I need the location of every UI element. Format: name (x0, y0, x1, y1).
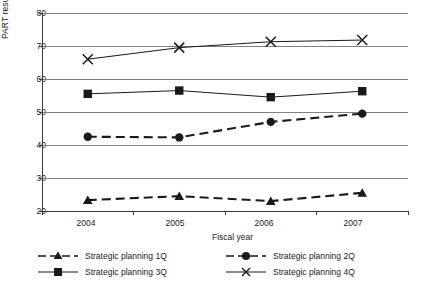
legend-sample-4q (224, 265, 268, 279)
data-point (267, 93, 275, 101)
legend-label-1q: Strategic planning 1Q (80, 251, 167, 261)
plot-area (0, 0, 423, 290)
data-point (358, 109, 366, 117)
series-2 (84, 109, 367, 141)
legend-item-2q[interactable]: Strategic planning 2Q (224, 248, 423, 263)
legend-sample-1q (36, 249, 80, 263)
legend-sample-2q (224, 249, 268, 263)
legend-label-4q: Strategic planning 4Q (268, 267, 355, 277)
line-chart: PART results score 80 70 60 50 40 30 20 … (0, 0, 423, 290)
data-point (175, 133, 183, 141)
gridlines (42, 13, 408, 211)
legend-item-1q[interactable]: Strategic planning 1Q (36, 248, 226, 263)
data-point (267, 118, 275, 126)
data-point (84, 90, 92, 98)
chart-legend: Strategic planning 1Q Strategic planning… (28, 248, 408, 284)
series-4 (83, 35, 368, 64)
data-point (358, 87, 366, 95)
series-layer (83, 35, 368, 205)
legend-sample-3q (36, 265, 80, 279)
legend-item-3q[interactable]: Strategic planning 3Q (36, 264, 226, 279)
series-3 (84, 86, 367, 101)
x-tick-marks (42, 211, 408, 215)
legend-label-3q: Strategic planning 3Q (80, 267, 167, 277)
data-point (84, 133, 92, 141)
legend-item-4q[interactable]: Strategic planning 4Q (224, 264, 423, 279)
series-1 (83, 188, 367, 205)
data-point (175, 86, 183, 94)
legend-label-2q: Strategic planning 2Q (268, 251, 355, 261)
